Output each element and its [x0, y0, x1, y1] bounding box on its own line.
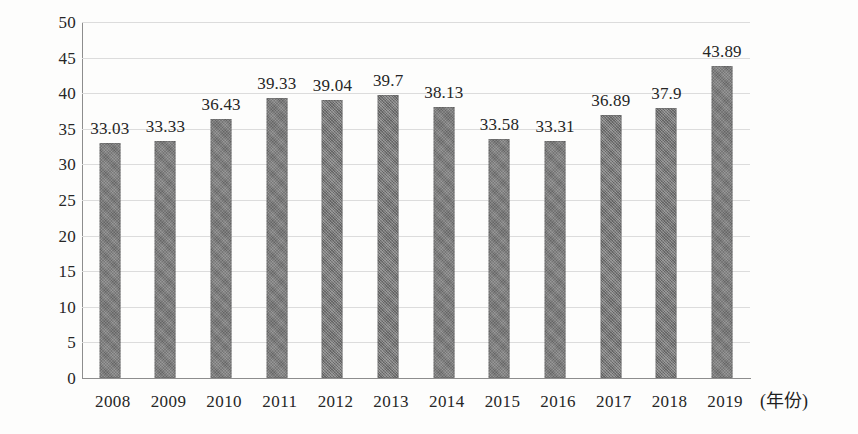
- bar-group: 39.7: [360, 22, 416, 378]
- x-axis-title: (年份): [760, 390, 808, 412]
- y-axis-tick-labels: 05101520253035404550: [38, 0, 76, 434]
- y-axis-tick-label: 30: [42, 156, 76, 173]
- bar[interactable]: [99, 143, 120, 378]
- bar-group: 39.33: [249, 22, 305, 378]
- bar[interactable]: [155, 141, 176, 378]
- bar-value-label: 33.03: [90, 120, 129, 137]
- y-axis-tick-label: 50: [42, 14, 76, 31]
- x-axis-tick-label: 2016: [528, 392, 588, 411]
- y-axis-tick-label: 35: [42, 121, 76, 138]
- x-axis-line: [82, 378, 751, 379]
- x-axis-tick-label: 2008: [83, 392, 143, 411]
- bar-value-label: 33.58: [480, 116, 519, 133]
- x-axis-tick-label: 2014: [417, 392, 477, 411]
- bar-value-label: 33.31: [536, 118, 575, 135]
- bar-group: 36.43: [193, 22, 249, 378]
- bar[interactable]: [266, 98, 287, 378]
- x-axis-tick-label: 2011: [250, 392, 310, 411]
- bar[interactable]: [322, 100, 343, 378]
- y-axis-tick-label: 5: [42, 334, 76, 351]
- x-axis-tick-label: 2019: [695, 392, 755, 411]
- x-axis-tick-label: 2009: [139, 392, 199, 411]
- bar-value-label: 36.43: [202, 96, 241, 113]
- x-axis-tick-label: 2017: [584, 392, 644, 411]
- bar-group: 43.89: [694, 22, 750, 378]
- bar-value-label: 38.13: [424, 84, 463, 101]
- bar-value-label: 39.7: [373, 72, 404, 89]
- y-axis-tick-label: 0: [42, 370, 76, 387]
- bar-group: 39.04: [305, 22, 361, 378]
- bar[interactable]: [712, 66, 733, 378]
- bar-group: 37.9: [639, 22, 695, 378]
- bar-value-label: 36.89: [591, 92, 630, 109]
- bar[interactable]: [600, 115, 621, 378]
- bar-group: 36.89: [583, 22, 639, 378]
- y-axis-tick-label: 45: [42, 50, 76, 67]
- bar-value-label: 33.33: [146, 118, 185, 135]
- plot-area: 33.0333.3336.4339.3339.0439.738.1333.583…: [82, 22, 750, 378]
- y-axis-tick-label: 15: [42, 263, 76, 280]
- x-axis-tick-label: 2018: [640, 392, 700, 411]
- y-axis-tick-label: 20: [42, 228, 76, 245]
- bar-value-label: 39.33: [257, 75, 296, 92]
- bar[interactable]: [433, 107, 454, 378]
- x-axis-tick-label: 2015: [473, 392, 533, 411]
- bar[interactable]: [211, 119, 232, 378]
- bar[interactable]: [545, 141, 566, 378]
- bar[interactable]: [489, 139, 510, 378]
- bar-group: 33.58: [472, 22, 528, 378]
- bar-group: 38.13: [416, 22, 472, 378]
- x-axis-tick-label: 2013: [361, 392, 421, 411]
- bar-group: 33.31: [527, 22, 583, 378]
- bar[interactable]: [378, 95, 399, 378]
- y-axis-tick-label: 25: [42, 192, 76, 209]
- x-axis-tick-label: 2010: [194, 392, 254, 411]
- bar-value-label: 39.04: [313, 77, 352, 94]
- bar-group: 33.33: [138, 22, 194, 378]
- y-axis-tick-label: 10: [42, 299, 76, 316]
- x-axis-tick-label: 2012: [306, 392, 366, 411]
- bar-value-label: 43.89: [703, 43, 742, 60]
- bar-group: 33.03: [82, 22, 138, 378]
- bar[interactable]: [656, 108, 677, 378]
- chart-page: 05101520253035404550 33.0333.3336.4339.3…: [0, 0, 858, 434]
- y-axis-tick-label: 40: [42, 85, 76, 102]
- bar-value-label: 37.9: [651, 85, 682, 102]
